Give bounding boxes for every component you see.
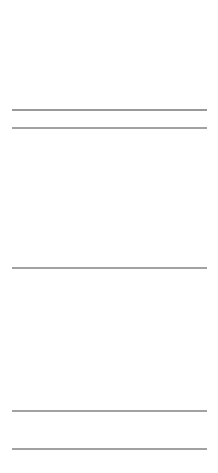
chromatogram-chart <box>0 0 218 473</box>
